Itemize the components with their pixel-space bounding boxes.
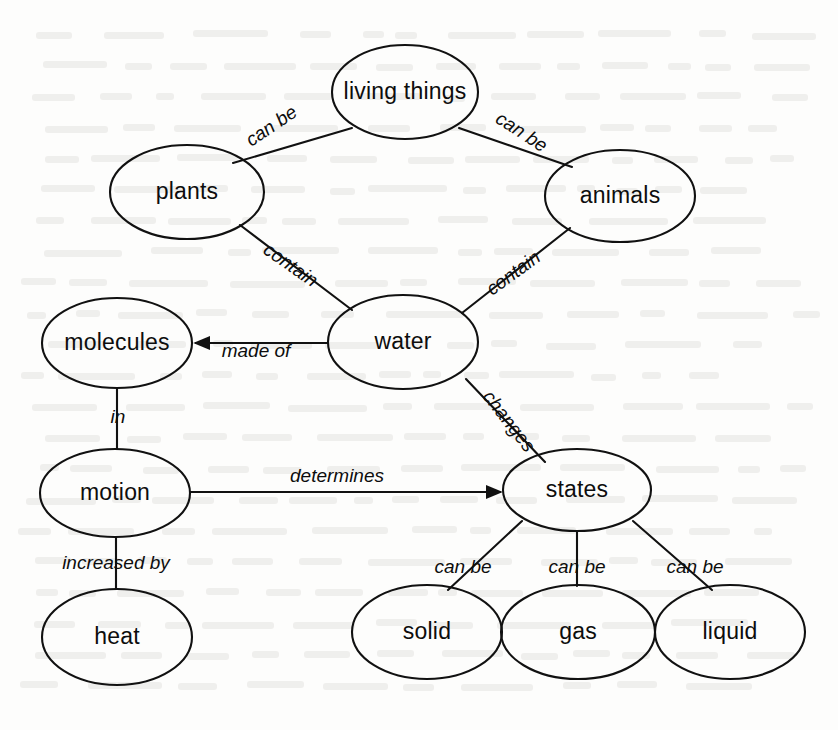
edge-label-e6: in bbox=[111, 406, 126, 427]
node-label-plants: plants bbox=[156, 178, 219, 204]
node-states[interactable]: states bbox=[503, 449, 651, 531]
edge-label-e4: contain bbox=[482, 246, 544, 299]
node-label-states: states bbox=[546, 476, 609, 502]
node-molecules[interactable]: molecules bbox=[42, 298, 192, 388]
node-label-motion: motion bbox=[80, 479, 150, 505]
edge-label-e5: made of bbox=[222, 340, 292, 361]
nodes-layer: living thingsplantsanimalswatermolecules… bbox=[40, 45, 805, 685]
node-gas[interactable]: gas bbox=[501, 585, 655, 679]
edge-label-e10: can be bbox=[434, 556, 491, 577]
node-animals[interactable]: animals bbox=[545, 150, 695, 242]
concept-map-graphic: living thingsplantsanimalswatermolecules… bbox=[0, 0, 838, 730]
edge-label-e7: determines bbox=[290, 465, 384, 486]
node-label-gas: gas bbox=[559, 618, 597, 644]
edge-label-e9: changes bbox=[479, 386, 540, 456]
edge-label-e3: contain bbox=[260, 239, 322, 291]
node-label-heat: heat bbox=[94, 623, 140, 649]
node-motion[interactable]: motion bbox=[40, 449, 190, 537]
node-solid[interactable]: solid bbox=[352, 585, 502, 679]
node-living_things[interactable]: living things bbox=[332, 45, 478, 139]
node-label-liquid: liquid bbox=[703, 618, 758, 644]
edge-label-e11: can be bbox=[548, 556, 605, 577]
node-label-solid: solid bbox=[403, 618, 451, 644]
node-plants[interactable]: plants bbox=[110, 145, 264, 239]
node-water[interactable]: water bbox=[328, 295, 478, 389]
node-heat[interactable]: heat bbox=[42, 589, 192, 685]
node-liquid[interactable]: liquid bbox=[655, 585, 805, 679]
node-label-living_things: living things bbox=[344, 78, 467, 104]
edge-label-e1: can be bbox=[242, 101, 301, 150]
node-label-water: water bbox=[373, 328, 431, 354]
node-label-molecules: molecules bbox=[64, 329, 169, 355]
edge-label-e8: increased by bbox=[62, 552, 171, 573]
node-label-animals: animals bbox=[580, 182, 661, 208]
concept-map-canvas: living thingsplantsanimalswatermolecules… bbox=[0, 0, 838, 730]
edge-label-e12: can be bbox=[666, 556, 723, 577]
